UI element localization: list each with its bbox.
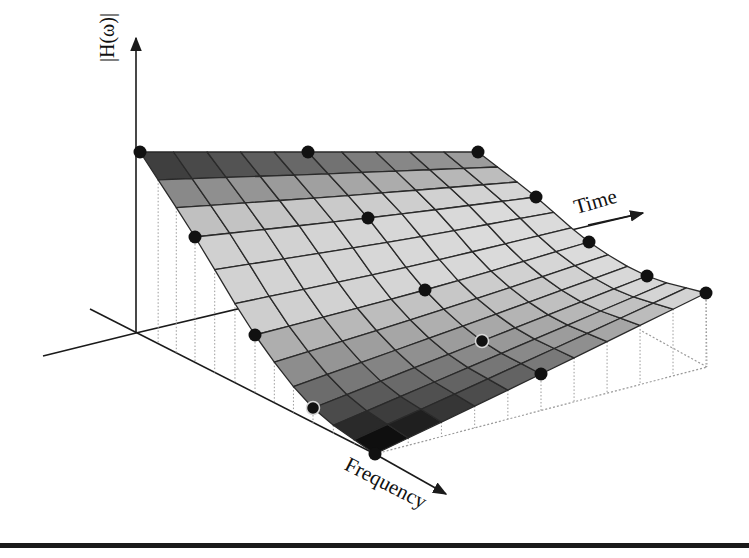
control-point-dot — [535, 368, 548, 381]
axis-left-stub — [43, 333, 136, 356]
control-point-dot — [249, 329, 262, 342]
control-point-dot — [302, 146, 315, 159]
control-point-dot — [419, 284, 432, 297]
control-point-dot — [472, 146, 485, 159]
control-point-dot — [189, 231, 202, 244]
bottom-rule — [0, 543, 749, 548]
control-point-dot — [476, 335, 489, 348]
drop-line — [706, 293, 707, 367]
surface-mesh — [140, 152, 706, 454]
control-point-dot — [700, 287, 713, 300]
control-point-dot — [362, 212, 375, 225]
vertical-axis-label: |H(ω)| — [96, 13, 119, 62]
control-point-dot — [530, 191, 543, 204]
control-point-dot — [583, 236, 596, 249]
control-point-dot — [307, 402, 320, 415]
control-point-dot — [641, 270, 654, 283]
time-axis-arrow — [588, 213, 643, 225]
control-point-dot — [134, 146, 147, 159]
control-point-dot — [369, 448, 382, 461]
